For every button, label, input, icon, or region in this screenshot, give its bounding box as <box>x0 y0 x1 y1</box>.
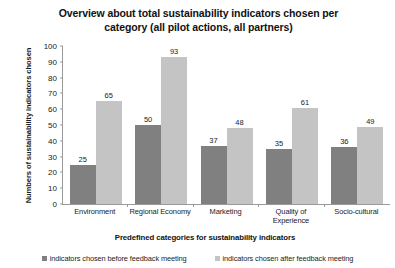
bar-slot: 35 <box>266 46 292 204</box>
bar-value-label: 36 <box>340 137 348 146</box>
bar: 61 <box>292 108 318 204</box>
bar-value-label: 50 <box>144 115 152 124</box>
bar: 48 <box>227 128 253 204</box>
bar-value-label: 25 <box>79 155 87 164</box>
x-axis-category-label: Quality ofExperience <box>258 207 323 225</box>
bar-slot: 37 <box>201 46 227 204</box>
bar: 25 <box>70 165 96 205</box>
legend-item[interactable]: indicators chosen before feedback meetin… <box>42 254 187 263</box>
bar-value-label: 49 <box>366 117 374 126</box>
bar-group: 3649 <box>325 46 390 204</box>
chart-legend: indicators chosen before feedback meetin… <box>0 254 395 263</box>
bar-slot: 65 <box>96 46 122 204</box>
x-axis-category-label: Socio-cultural <box>324 207 389 225</box>
bar-group: 2565 <box>63 46 128 204</box>
bar: 65 <box>96 101 122 204</box>
y-axis-tick-label: 90 <box>17 57 63 66</box>
legend-label: indicators chosen before feedback meetin… <box>50 254 187 263</box>
bar-value-label: 48 <box>235 118 243 127</box>
bar-value-label: 37 <box>209 136 217 145</box>
bar: 50 <box>135 125 161 204</box>
y-axis-tick-label: 30 <box>17 152 63 161</box>
bar: 49 <box>357 127 383 204</box>
y-axis-tick-label: 10 <box>17 184 63 193</box>
legend-swatch-icon <box>42 256 47 261</box>
y-axis-tick-label: 100 <box>17 42 63 51</box>
bar-groups: 25655093374835613649 <box>63 46 390 204</box>
bar-slot: 49 <box>357 46 383 204</box>
bar-slot: 61 <box>292 46 318 204</box>
y-axis-tick-label: 80 <box>17 73 63 82</box>
bar-group: 3561 <box>259 46 324 204</box>
y-axis-tick-label: 40 <box>17 136 63 145</box>
bar-chart: Overview about total sustainability indi… <box>0 0 395 268</box>
bar-slot: 48 <box>227 46 253 204</box>
bar-slot: 50 <box>135 46 161 204</box>
bar: 37 <box>201 146 227 204</box>
y-axis-tick-label: 50 <box>17 121 63 130</box>
y-axis-tick-label: 20 <box>17 168 63 177</box>
chart-title-line-1: Overview about total sustainability indi… <box>59 7 339 19</box>
legend-swatch-icon <box>215 256 220 261</box>
legend-item[interactable]: indicators chosen after feedback meeting <box>215 254 354 263</box>
bar: 93 <box>161 57 187 204</box>
bar-slot: 36 <box>331 46 357 204</box>
plot-area: 1009080706050403020100 25655093374835613… <box>62 46 390 205</box>
bar-group: 3748 <box>194 46 259 204</box>
bar-value-label: 35 <box>275 139 283 148</box>
y-axis-tick-label: 70 <box>17 89 63 98</box>
bar-group: 5093 <box>128 46 193 204</box>
bar-value-label: 65 <box>105 91 113 100</box>
bar: 36 <box>331 147 357 204</box>
x-axis-category-label: Marketing <box>193 207 258 225</box>
chart-title: Overview about total sustainability indi… <box>46 6 351 34</box>
bar: 35 <box>266 149 292 204</box>
legend-label: indicators chosen after feedback meeting <box>223 254 354 263</box>
bar-value-label: 93 <box>170 47 178 56</box>
x-axis-title: Predefined categories for sustainability… <box>40 233 370 242</box>
x-axis-category-labels: EnvironmentRegional EconomyMarketingQual… <box>62 207 389 225</box>
bar-value-label: 61 <box>301 98 309 107</box>
bar-slot: 25 <box>70 46 96 204</box>
x-axis-category-label: Environment <box>62 207 127 225</box>
bar-slot: 93 <box>161 46 187 204</box>
chart-title-line-2: category (all pilot actions, all partner… <box>104 21 292 33</box>
y-axis-tick-label: 0 <box>17 200 63 209</box>
x-axis-category-label: Regional Economy <box>127 207 192 225</box>
y-axis-tick-label: 60 <box>17 105 63 114</box>
